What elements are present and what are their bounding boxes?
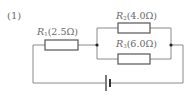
resistor-label-r2: R2(4.0Ω): [116, 11, 157, 22]
resistor-r2: [118, 23, 150, 33]
junction-right-dot: [169, 43, 172, 46]
wire-left-bus: [97, 28, 118, 59]
resistor-value: (2.5Ω): [48, 26, 78, 37]
wire-left: [33, 45, 105, 83]
resistor-label-r3: R3(6.0Ω): [116, 39, 157, 50]
resistor-value: (4.0Ω): [127, 10, 157, 21]
junction-left-dot: [95, 43, 98, 46]
resistor-value: (6.0Ω): [127, 38, 157, 49]
resistor-label-r1: R1(2.5Ω): [37, 27, 78, 38]
circuit-schematic: [0, 0, 194, 96]
resistor-r3: [118, 54, 150, 64]
battery-icon: [106, 75, 110, 91]
resistor-r1: [45, 40, 78, 50]
circuit-diagram: (1) R1(2.5Ω) R2(4.0Ω) R3(6.0Ω): [0, 0, 194, 96]
problem-number: (1): [7, 11, 21, 21]
